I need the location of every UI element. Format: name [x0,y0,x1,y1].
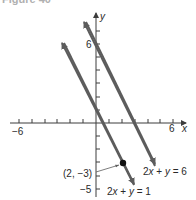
eq1-label: 2x + y = 6 [143,166,187,177]
leader-arrow-icon [115,165,119,168]
point-label: (2, −3) [63,168,92,179]
eq2-label: 2x + y = 1 [107,186,151,197]
y-axis-label: y [99,11,106,22]
x-max-label: 6 [169,123,175,134]
y-min-label: −5 [80,184,92,195]
x-axis-label: x [181,123,188,134]
y-max-label: 6 [86,39,92,50]
point-leader-line [96,165,119,172]
x-min-label: −6 [12,126,24,137]
line-2x-plus-y-eq-6 [84,22,155,166]
graph: y x −6 6 6 −5 (2, −3) 2x + y = 6 2x + y … [0,0,196,200]
point-2-neg3 [120,160,126,166]
